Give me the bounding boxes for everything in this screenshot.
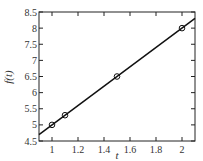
y-tick-label: 7.5: [25, 39, 38, 50]
y-tick-label: 6.5: [25, 71, 38, 82]
y-axis-label: f(t): [2, 70, 15, 84]
series-layer: [39, 18, 195, 134]
y-tick-label: 5.5: [25, 103, 38, 114]
y-tick-label: 5: [32, 119, 37, 130]
y-tick-label: 6: [32, 87, 37, 98]
line-chart: 11.21.41.61.82 4.555.566.577.588.5 t f(t…: [0, 0, 203, 161]
y-tick-label: 8.5: [25, 7, 38, 18]
x-tick-label: 1.4: [98, 144, 111, 155]
y-tick-label: 8: [32, 23, 37, 34]
x-tick-label: 2: [180, 144, 185, 155]
x-tick-label: 1: [50, 144, 55, 155]
x-axis-ticks: 11.21.41.61.82: [50, 12, 185, 155]
x-tick-label: 1.2: [72, 144, 85, 155]
y-tick-label: 4.5: [25, 136, 38, 147]
x-tick-label: 1.6: [124, 144, 137, 155]
x-axis-label: t: [115, 149, 119, 161]
x-tick-label: 1.8: [150, 144, 163, 155]
y-tick-label: 7: [32, 55, 37, 66]
